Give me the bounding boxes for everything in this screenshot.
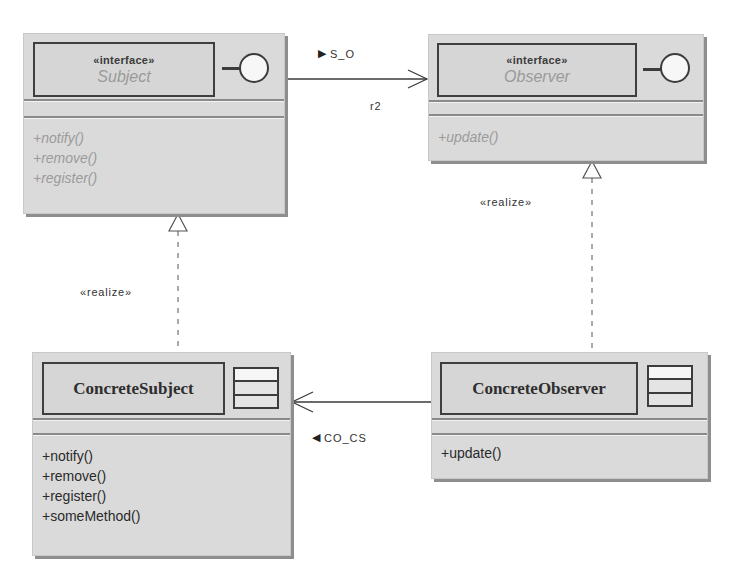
realize-label-subject: «realize» — [80, 286, 132, 298]
direction-right-icon: ▶ — [318, 47, 327, 60]
operations-list: +notify() +remove() +register() — [33, 128, 97, 188]
class-concrete-subject-header: ConcreteSubject — [42, 362, 225, 415]
direction-left-icon: ◀ — [312, 431, 321, 444]
class-name: ConcreteSubject — [73, 379, 194, 399]
stereotype-label: «interface» — [506, 53, 567, 67]
operations-list: +update() — [441, 443, 501, 463]
association-label-co-cs: ◀ CO_CS — [312, 431, 367, 444]
class-concrete-observer[interactable]: ConcreteObserver +update() — [431, 352, 708, 479]
lollipop-stick — [643, 68, 661, 71]
operation-item: +update() — [438, 127, 498, 147]
operation-item: +someMethod() — [42, 506, 140, 526]
attributes-separator — [429, 100, 703, 103]
association-name: CO_CS — [324, 432, 367, 444]
realize-label-observer: «realize» — [480, 196, 532, 208]
operation-item: +remove() — [42, 466, 140, 486]
operations-separator — [33, 433, 290, 436]
realization-subject[interactable] — [169, 214, 187, 352]
attributes-separator — [33, 418, 290, 421]
association-label-s-o: ▶ S_O — [318, 47, 355, 60]
operations-list: +update() — [438, 127, 498, 147]
operation-item: +update() — [441, 443, 501, 463]
class-observer[interactable]: «interface» Observer +update() — [428, 34, 704, 161]
realization-observer[interactable] — [583, 161, 601, 352]
uml-diagram-canvas: «interface» Subject +notify() +remove() … — [0, 0, 735, 579]
class-subject-header: «interface» Subject — [33, 42, 215, 97]
attributes-separator — [24, 99, 284, 102]
operations-separator — [429, 114, 703, 117]
class-concrete-subject[interactable]: ConcreteSubject +notify() +remove() +reg… — [32, 352, 291, 556]
operation-item: +register() — [33, 168, 97, 188]
association-name: S_O — [330, 48, 355, 60]
class-concrete-observer-header: ConcreteObserver — [440, 362, 638, 415]
association-co-cs[interactable] — [292, 392, 431, 412]
operation-item: +notify() — [33, 128, 97, 148]
class-observer-header: «interface» Observer — [437, 43, 637, 97]
lollipop-interface-icon — [660, 53, 690, 83]
operation-item: +notify() — [42, 446, 140, 466]
class-name: ConcreteObserver — [472, 379, 606, 399]
operation-item: +register() — [42, 486, 140, 506]
stereotype-label: «interface» — [93, 53, 154, 67]
association-s-o[interactable] — [286, 70, 427, 88]
class-subject[interactable]: «interface» Subject +notify() +remove() … — [23, 33, 285, 214]
role-label-r2: r2 — [370, 100, 381, 112]
operations-list: +notify() +remove() +register() +someMet… — [42, 446, 140, 526]
class-icon — [233, 367, 279, 409]
class-icon — [647, 365, 693, 407]
lollipop-stick — [222, 67, 240, 70]
operations-separator — [432, 433, 707, 436]
operations-separator — [24, 116, 284, 119]
lollipop-interface-icon — [239, 53, 269, 83]
attributes-separator — [432, 418, 707, 421]
class-name: Observer — [504, 67, 570, 87]
operation-item: +remove() — [33, 148, 97, 168]
class-name: Subject — [97, 67, 150, 87]
